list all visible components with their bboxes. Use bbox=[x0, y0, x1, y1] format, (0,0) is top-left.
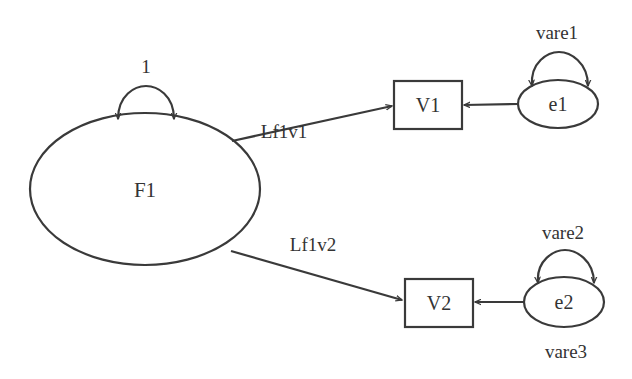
observed-label-v2: V2 bbox=[427, 292, 451, 314]
observed-node-v2: V2 bbox=[405, 279, 473, 327]
error-label-e2: e2 bbox=[555, 291, 574, 313]
path-label-lf1v1: Lf1v1 bbox=[261, 121, 307, 142]
variance-loop-e1: vare1 bbox=[532, 22, 588, 86]
error-label-e1: e1 bbox=[549, 93, 568, 115]
extra-label-vare3: vare3 bbox=[545, 341, 587, 362]
observed-node-v1: V1 bbox=[394, 81, 462, 129]
error-node-e2: e2 bbox=[524, 277, 604, 327]
path-f1-v1: Lf1v1 bbox=[232, 106, 392, 142]
observed-label-v1: V1 bbox=[416, 94, 440, 116]
path-label-lf1v2: Lf1v2 bbox=[290, 234, 336, 255]
latent-node-f1: F1 bbox=[30, 113, 260, 265]
variance-loop-e2: vare2 bbox=[538, 222, 594, 283]
error-variance-label-e1: vare1 bbox=[536, 22, 578, 43]
latent-variance-label: 1 bbox=[141, 56, 151, 77]
error-variance-label-e2: vare2 bbox=[542, 222, 584, 243]
path-e1-v1 bbox=[464, 104, 518, 105]
path-diagram: F1 1 Lf1v1 Lf1v2 V1 V2 e1 vare1 e2 bbox=[0, 0, 632, 379]
variance-loop-f1: 1 bbox=[118, 56, 174, 119]
path-f1-v2: Lf1v2 bbox=[231, 234, 402, 300]
error-node-e1: e1 bbox=[518, 80, 598, 128]
latent-label: F1 bbox=[134, 178, 156, 202]
